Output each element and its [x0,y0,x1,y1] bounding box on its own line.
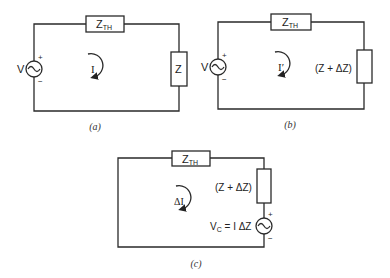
figure-b: ZTH (Z + ΔZ) V + − I′ (b) [201,14,372,131]
circuit-diagrams: ZTH Z V + − I (a) ZTH (Z + ΔZ) V + − I′ … [0,0,390,278]
load-label-b: (Z + ΔZ) [315,63,352,74]
figure-c: ZTH (Z + ΔZ) VC = I ΔZ + − ΔI (c) [118,151,273,270]
caption-b: (b) [284,119,296,131]
minus-sign-c: − [268,234,273,243]
figure-a: ZTH Z V + − I (a) [17,16,187,133]
load-impedance-b [357,50,372,83]
current-label-a: I [91,63,95,75]
current-label-b: I′ [278,61,284,73]
load-label-c: (Z + ΔZ) [215,182,252,193]
minus-sign-a: − [38,77,43,86]
caption-a: (a) [89,121,101,133]
load-label-a: Z [175,63,182,75]
source-label-c: VC = I ΔZ [210,221,251,233]
plus-sign-b: + [222,51,227,60]
load-impedance-c [257,169,271,203]
source-label-a: V [17,63,25,75]
current-label-c: ΔI [174,196,184,207]
plus-sign-c: + [268,210,273,219]
minus-sign-b: − [222,75,227,84]
caption-c: (c) [190,258,202,270]
source-label-b: V [201,61,209,73]
plus-sign-a: + [38,53,43,62]
